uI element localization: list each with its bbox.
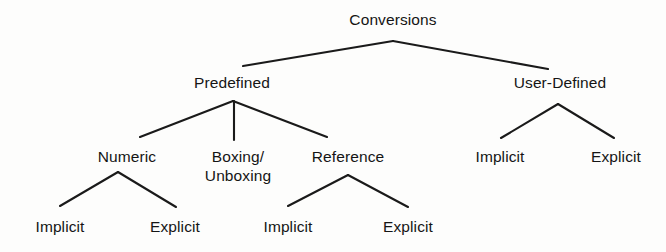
tree-edge-numeric-to-num-explicit	[118, 172, 176, 207]
tree-node-ud-implicit: Implicit	[475, 147, 524, 166]
tree-edge-predefined-to-numeric	[140, 101, 233, 137]
tree-node-ud-explicit: Explicit	[591, 147, 641, 166]
tree-edge-user-defined-to-ud-implicit	[501, 104, 558, 138]
tree-node-num-explicit: Explicit	[150, 217, 200, 236]
tree-node-ref-explicit: Explicit	[383, 217, 433, 236]
tree-node-numeric: Numeric	[98, 147, 156, 166]
tree-edge-numeric-to-num-implicit	[60, 172, 118, 206]
tree-node-user-defined: User-Defined	[514, 73, 607, 92]
tree-edge-user-defined-to-ud-explicit	[558, 104, 614, 138]
conversions-tree-diagram: ConversionsPredefinedUser-DefinedNumeric…	[0, 0, 666, 252]
edge-layer	[0, 0, 666, 252]
tree-node-reference: Reference	[312, 147, 384, 166]
tree-node-num-implicit: Implicit	[35, 217, 84, 236]
tree-edge-predefined-to-reference	[233, 101, 327, 137]
tree-node-boxing-unboxing: Boxing/ Unboxing	[205, 147, 271, 185]
tree-node-conversions: Conversions	[349, 10, 436, 29]
tree-node-ref-implicit: Implicit	[263, 217, 312, 236]
tree-edge-conversions-to-user-defined	[393, 41, 548, 69]
tree-node-predefined: Predefined	[194, 73, 270, 92]
tree-edge-reference-to-ref-implicit	[288, 175, 348, 206]
tree-edge-conversions-to-predefined	[243, 41, 393, 66]
tree-edge-reference-to-ref-explicit	[348, 175, 408, 207]
